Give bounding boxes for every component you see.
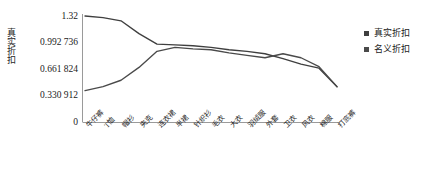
legend-item[interactable]: 真实折扣	[364, 26, 444, 40]
legend-item[interactable]: 名义折扣	[364, 42, 444, 56]
y-axis-tick-label: 0	[16, 117, 78, 127]
chart-legend: 真实折扣名义折扣	[364, 26, 444, 58]
square-marker-icon	[364, 31, 369, 36]
legend-item-label: 名义折扣	[374, 44, 410, 54]
series-group	[85, 16, 337, 91]
legend-item-label: 真实折扣	[374, 28, 410, 38]
series-line-2	[85, 47, 337, 90]
plot-svg	[82, 16, 340, 122]
y-axis-tick-label: 0.330 912	[16, 90, 78, 100]
y-axis-tick-label: 0.661 824	[16, 64, 78, 74]
plot-area	[82, 16, 340, 122]
x-axis-tick-labels: 牛仔裤T恤帽衫夹克连衣裙半裙针织衫毛衣大衣羽绒服外套卫衣风衣棉服打底裤	[82, 122, 342, 175]
y-axis-tick-label: 1.32	[16, 11, 78, 21]
series-line-1	[85, 16, 337, 87]
y-axis-tick-label: 0.992 736	[16, 37, 78, 47]
y-axis-tick-labels: 00.330 9120.661 8240.992 7361.32	[14, 0, 78, 175]
square-marker-icon	[364, 47, 369, 52]
line-chart: 真实折扣 00.330 9120.661 8240.992 7361.32 牛仔…	[0, 0, 446, 175]
